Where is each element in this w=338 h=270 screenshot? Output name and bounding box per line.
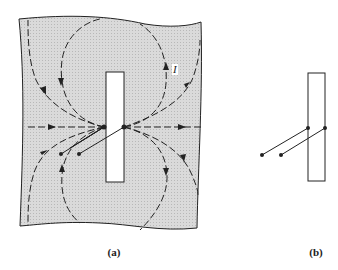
panel-a: [19, 16, 203, 230]
slot-a: [106, 72, 124, 182]
panel-b-label: (b): [309, 246, 322, 258]
figure-canvas: [0, 0, 338, 270]
panel-a-label: (a): [108, 246, 121, 258]
slot-b: [308, 73, 325, 181]
panel-b: [260, 73, 327, 181]
current-label: I: [172, 64, 178, 75]
